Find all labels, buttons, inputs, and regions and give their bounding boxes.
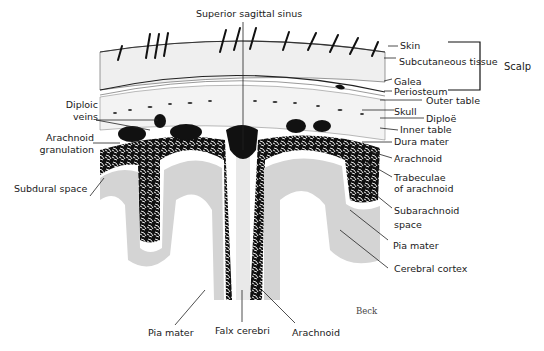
label-subarachnoid-space-1: Subarachnoid [394,205,459,216]
label-superior-sagittal-sinus: Superior sagittal sinus [196,8,302,19]
label-skin: Skin [400,40,420,51]
label-diploic-veins-2: veins [30,111,98,122]
label-subcutaneous-tissue: Subcutaneous tissue [399,56,498,67]
label-scalp: Scalp [504,61,531,72]
label-pia-mater-right: Pia mater [393,240,439,251]
label-outer-table: Outer table [426,95,480,106]
label-trabeculae-2: of arachnoid [394,183,453,194]
label-arachnoid-granulation-1: Arachnoid [20,132,94,143]
label-dura-mater: Dura mater [394,136,449,147]
label-pia-mater-bottom: Pia mater [148,327,194,338]
label-falx-cerebri: Falx cerebri [215,325,270,336]
label-arachnoid-granulation-2: granulation [20,144,94,155]
falx-cerebri [236,150,250,300]
label-cerebral-cortex: Cerebral cortex [394,263,467,274]
label-diploe: Diploë [426,113,456,124]
label-artist-credit: Beck [356,306,377,317]
label-skull: Skull [394,106,417,117]
meninges-illustration [0,0,544,351]
label-arachnoid-bottom: Arachnoid [292,327,340,338]
label-inner-table: Inner table [400,124,452,135]
label-subarachnoid-space-2: space [394,219,422,230]
label-arachnoid-right: Arachnoid [394,153,442,164]
superior-sagittal-sinus [226,125,258,159]
label-trabeculae-1: Trabeculae [394,172,446,183]
label-diploic-veins-1: Diploic [30,99,98,110]
anatomy-diagram: Superior sagittal sinus Diploic veins Ar… [0,0,544,351]
label-subdural-space: Subdural space [14,183,87,194]
